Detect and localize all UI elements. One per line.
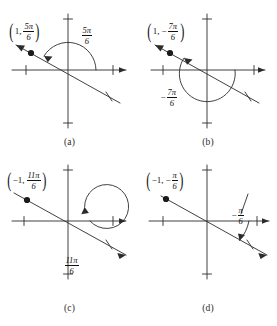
plotted-point (163, 196, 169, 202)
ray-arrowhead (155, 45, 164, 52)
close-paren: ) (180, 172, 184, 189)
angle-fraction: 5π 6 (23, 22, 34, 41)
fraction-denominator: 6 (82, 35, 93, 45)
angle-arc (44, 42, 96, 70)
angle-fraction: π 6 (238, 206, 244, 225)
label-comma: , (22, 176, 26, 185)
angle-fraction: 11π 6 (65, 256, 79, 275)
fraction-numerator: π (238, 206, 244, 215)
fraction-denominator: 6 (238, 215, 244, 225)
x-axis-arrowhead (262, 218, 269, 224)
panel-caption-a: (a) (0, 137, 139, 147)
angle-fraction: 7π 6 (168, 22, 179, 41)
panel-a: ( 1 , 5π 6 ) 5π 6 (a) (0, 0, 139, 163)
close-paren: ) (36, 23, 40, 40)
fraction-denominator: 6 (23, 31, 34, 41)
fraction-denominator: 6 (65, 265, 79, 275)
plotted-point (24, 197, 30, 203)
plotted-point (28, 50, 34, 56)
angle-label-a: 5π 6 (81, 26, 93, 45)
panel-caption-d: (d) (139, 303, 277, 313)
x-axis-arrowhead (119, 67, 126, 73)
open-paren: ( (7, 172, 11, 189)
fraction-denominator: 6 (27, 180, 41, 190)
angle-arc-arrowhead (81, 207, 89, 214)
angle-sign: − (165, 176, 171, 185)
fraction-numerator: 7π (168, 22, 179, 31)
fraction-numerator: 7π (167, 88, 178, 97)
angle-label-c: 11π 6 (64, 256, 79, 275)
point-label-c: ( −1 , 11π 6 ) (6, 171, 48, 190)
fraction-denominator: 6 (167, 97, 178, 107)
open-paren: ( (9, 23, 13, 40)
label-comma: , (19, 27, 23, 36)
angle-label-d: − π 6 (231, 206, 244, 225)
panel-d: ( −1 , − π 6 ) − π 6 (d) (139, 163, 277, 326)
angle-sign: − (160, 93, 166, 102)
r-value: −1 (152, 176, 162, 185)
fraction-numerator: 5π (82, 26, 93, 35)
fraction-numerator: 11π (27, 171, 41, 180)
close-paren: ) (180, 23, 184, 40)
panel-caption-b: (b) (139, 137, 277, 147)
ray-unit-tick (245, 92, 251, 101)
fraction-denominator: 6 (172, 180, 178, 190)
terminal-ray-line (14, 193, 126, 255)
panel-caption-c: (c) (0, 303, 139, 313)
angle-label-b: − 7π 6 (160, 88, 178, 107)
angle-fraction: 11π 6 (27, 171, 41, 190)
angle-sign: − (161, 27, 167, 36)
fraction-numerator: π (172, 171, 178, 180)
angle-fraction: π 6 (172, 171, 178, 190)
ray-arrowhead (16, 45, 25, 52)
angle-arc-full-loop (85, 185, 129, 229)
panel-b: ( 1 , − 7π 6 ) − 7π 6 (b) (139, 0, 277, 163)
x-axis-arrowhead (258, 67, 265, 73)
open-paren: ( (146, 172, 150, 189)
angle-fraction: 5π 6 (82, 26, 93, 45)
panel-c: ( −1 , 11π 6 ) 11π 6 (c) (0, 163, 139, 326)
angle-fraction: 7π 6 (167, 88, 178, 107)
plotted-point (167, 50, 173, 56)
point-label-d: ( −1 , − π 6 ) (145, 171, 185, 190)
close-paren: ) (42, 172, 46, 189)
fraction-numerator: 5π (23, 22, 34, 31)
r-value: −1 (13, 176, 23, 185)
polar-figure-grid: ( 1 , 5π 6 ) 5π 6 (a) (0, 0, 277, 326)
point-label-a: ( 1 , 5π 6 ) (8, 22, 41, 41)
fraction-denominator: 6 (168, 31, 179, 41)
angle-sign: − (231, 211, 237, 220)
open-paren: ( (147, 23, 151, 40)
ray-unit-tick (106, 92, 112, 101)
point-label-b: ( 1 , − 7π 6 ) (146, 22, 185, 41)
fraction-numerator: 11π (65, 256, 79, 265)
